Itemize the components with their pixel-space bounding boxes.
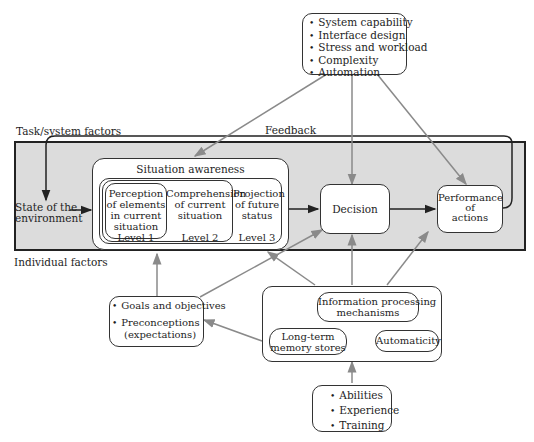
state-of-environment-label: State of the environment bbox=[15, 202, 83, 224]
task-system-factors-label: Task/system factors bbox=[16, 125, 121, 137]
performance-of-actions-box: Performance of actions bbox=[437, 185, 503, 233]
level3-text: Projection of future status Level 3 bbox=[233, 188, 281, 243]
info-processing-box: Information processing mechanisms Long-t… bbox=[262, 286, 442, 362]
decision-box: Decision bbox=[320, 184, 390, 234]
automaticity-box: Automaticity bbox=[375, 330, 439, 352]
info-processing-mechanisms: Information processing mechanisms bbox=[317, 292, 419, 322]
level1-text: Perception of elements in current situat… bbox=[105, 188, 167, 243]
task-factor-item: Stress and workload bbox=[309, 42, 400, 55]
individual-inputs-box: Abilities Experience Training bbox=[312, 385, 392, 432]
feedback-label: Feedback bbox=[265, 124, 316, 136]
goals-box: Goals and objectives Preconceptions (exp… bbox=[109, 296, 204, 347]
task-factors-box: System capability Interface design Stres… bbox=[302, 13, 407, 75]
goals-item: Preconceptions bbox=[112, 317, 201, 330]
individual-factors-label: Individual factors bbox=[14, 256, 108, 268]
input-item: Abilities bbox=[330, 388, 391, 403]
goals-sub: (expectations) bbox=[112, 329, 201, 340]
task-factor-item: Automation bbox=[309, 67, 400, 80]
input-item: Training bbox=[330, 418, 391, 433]
level3-label: Level 3 bbox=[233, 232, 281, 243]
level2-text: Comprehension of current situation Level… bbox=[166, 188, 234, 243]
goals-item: Goals and objectives bbox=[112, 300, 201, 313]
task-factor-item: System capability bbox=[309, 17, 400, 30]
input-item: Experience bbox=[330, 403, 391, 418]
level1-label: Level 1 bbox=[105, 232, 167, 243]
long-term-memory-box: Long-term memory stores bbox=[269, 328, 347, 355]
situation-awareness-title: Situation awareness bbox=[92, 163, 289, 175]
level2-label: Level 2 bbox=[166, 232, 234, 243]
